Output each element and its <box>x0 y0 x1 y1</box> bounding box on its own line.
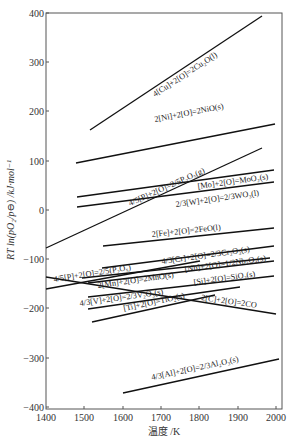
line-ni <box>76 124 275 163</box>
y-tick-200: 200 <box>29 106 44 117</box>
x-tick-2000: 2000 <box>266 412 286 423</box>
y-tick-0: 0 <box>39 205 44 216</box>
y-axis-label: RT ln(pO₂/p⊖) /kJ·mol⁻¹ <box>5 160 17 261</box>
x-tick-1800: 1800 <box>189 412 209 423</box>
ellingham-chart: 400 300 200 100 0 −100 −200 −300 −400 14… <box>0 0 287 436</box>
y-tick-neg200: −200 <box>23 303 44 314</box>
label-cu: 4[Cu]+2[O]=2Cu₂O(l) <box>151 50 219 98</box>
y-tick-400: 400 <box>29 8 44 19</box>
label-c: 2[C]+2[O]=2CO <box>201 293 258 310</box>
y-tick-100: 100 <box>29 156 44 167</box>
label-w: 2/3[W]+2[O]=2/3WO₃(l) <box>175 188 260 209</box>
y-tick-neg300: −300 <box>23 353 44 364</box>
y-tick-300: 300 <box>29 57 44 68</box>
y-tick-neg100: −100 <box>23 254 44 265</box>
x-tick-1700: 1700 <box>151 412 171 423</box>
x-tick-1500: 1500 <box>74 412 94 423</box>
label-si: [Si]+2[O]=SiO₂(s) <box>193 269 256 287</box>
x-tick-1600: 1600 <box>113 412 133 423</box>
x-tick-1400: 1400 <box>36 412 56 423</box>
plot-frame <box>46 13 282 409</box>
x-tick-1900: 1900 <box>228 412 248 423</box>
x-axis-label: 温度 /K <box>148 425 181 436</box>
label-ni: 2[Ni]+2[O]=2NiO(s) <box>154 102 225 124</box>
reaction-lines <box>46 16 279 393</box>
label-fe: 2[Fe]+2[O]=2FeO(l) <box>151 223 221 239</box>
